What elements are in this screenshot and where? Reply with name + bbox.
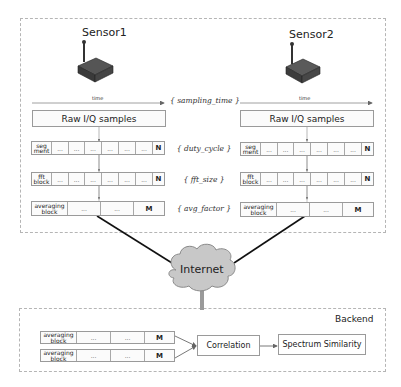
fft-cell: ... <box>69 173 85 185</box>
averaging-head: averagingblock <box>32 202 68 215</box>
fft-cell: ... <box>294 173 311 185</box>
sensor1-fft-row: fftblock ... ... ... ... ... ... N <box>31 172 165 186</box>
fft-end: N <box>362 173 373 185</box>
fft-cell: ... <box>102 173 119 185</box>
sensor2-averaging-row: averagingblock ... ... M <box>240 202 374 217</box>
fft-cell: ... <box>52 173 69 185</box>
segment-head: segment <box>241 143 261 155</box>
fft-cell: ... <box>278 173 294 185</box>
connector-lines <box>0 0 401 387</box>
sensor2-label: Sensor2 <box>289 28 334 41</box>
sensor1-segment-row: segment ... ... ... ... ... ... N <box>31 141 165 155</box>
fft-cell: ... <box>345 173 362 185</box>
sensor2-device-icon <box>286 42 320 83</box>
averaging-cell: ... <box>111 332 145 343</box>
segment-cell: ... <box>311 143 328 155</box>
sensor1-time-label: time <box>92 95 103 101</box>
segment-cell: ... <box>261 143 278 155</box>
averaging-cell: ... <box>77 332 111 343</box>
sensor2-time-label: time <box>299 95 310 101</box>
segment-cell: ... <box>136 142 153 154</box>
averaging-head: averagingblock <box>41 350 77 361</box>
averaging-cell: ... <box>77 350 111 361</box>
segment-cell: ... <box>52 142 69 154</box>
fft-cell: ... <box>136 173 153 185</box>
sensor2-segment-row: segment ... ... ... ... ... ... N <box>240 142 374 156</box>
segment-cell: ... <box>278 143 294 155</box>
sensor1-raw-iq-box: Raw I/Q samples <box>32 110 166 127</box>
fft-cell: ... <box>85 173 102 185</box>
segment-end: N <box>153 142 164 154</box>
sensor1-averaging-row: averagingblock ... ... M <box>31 201 165 216</box>
sensor1-device-icon <box>78 40 113 82</box>
segment-end: N <box>362 143 373 155</box>
avg-factor-param: { avg_factor } <box>170 204 238 213</box>
segment-cell: ... <box>102 142 119 154</box>
fft-head: fftblock <box>32 173 52 185</box>
segment-cell: ... <box>328 143 345 155</box>
averaging-end: M <box>145 350 174 361</box>
backend-title: Backend <box>335 314 373 324</box>
fft-size-param: { fft_size } <box>170 175 238 184</box>
sensor2-raw-iq-box: Raw I/Q samples <box>240 110 374 127</box>
sampling-time-param: { sampling_time } <box>170 96 238 105</box>
segment-cell: ... <box>69 142 85 154</box>
averaging-cell: ... <box>101 202 134 215</box>
internet-label: Internet <box>180 263 224 276</box>
segment-cell: ... <box>119 142 136 154</box>
segment-cell: ... <box>294 143 311 155</box>
segment-cell: ... <box>345 143 362 155</box>
fft-cell: ... <box>261 173 278 185</box>
sensor1-label: Sensor1 <box>82 26 127 39</box>
fft-cell: ... <box>328 173 345 185</box>
averaging-end: M <box>343 203 373 216</box>
averaging-cell: ... <box>277 203 310 216</box>
backend-averaging-row-1: averagingblock ... ... M <box>40 331 175 344</box>
averaging-cell: ... <box>111 350 145 361</box>
averaging-head: averagingblock <box>41 332 77 343</box>
duty-cycle-param: { duty_cycle } <box>170 144 238 153</box>
fft-cell: ... <box>311 173 328 185</box>
sensor2-fft-row: fftblock ... ... ... ... ... ... N <box>240 172 374 186</box>
averaging-end: M <box>145 332 174 343</box>
averaging-cell: ... <box>68 202 101 215</box>
fft-cell: ... <box>119 173 136 185</box>
averaging-head: averagingblock <box>241 203 277 216</box>
backend-averaging-row-2: averagingblock ... ... M <box>40 349 175 362</box>
averaging-end: M <box>134 202 164 215</box>
correlation-box: Correlation <box>197 335 260 356</box>
segment-cell: ... <box>85 142 102 154</box>
segment-head: segment <box>32 142 52 154</box>
fft-end: N <box>153 173 164 185</box>
spectrum-similarity-box: Spectrum Similarity <box>278 334 366 355</box>
averaging-cell: ... <box>310 203 343 216</box>
fft-head: fftblock <box>241 173 261 185</box>
